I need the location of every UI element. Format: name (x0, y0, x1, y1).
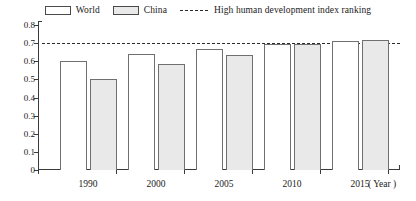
legend-label-world: World (76, 5, 100, 15)
x-axis-tick (320, 170, 321, 174)
chart-legend: World China High human development index… (0, 0, 416, 20)
x-axis-cap (399, 165, 400, 170)
legend-item-reference-line: High human development index ranking (180, 5, 371, 15)
bar-group (264, 25, 321, 170)
y-axis-label: 0.2 (24, 129, 35, 138)
x-axis-label-2005: 2005 (215, 180, 234, 190)
bar-china-2015 (362, 40, 389, 170)
bar-world-2015 (332, 41, 359, 170)
x-axis-label-2010: 2010 (283, 180, 302, 190)
legend-swatch-dashed-line-icon (180, 10, 208, 11)
x-axis-label-1990: 1990 (79, 180, 98, 190)
x-axis-tick (252, 170, 253, 174)
legend-label-reference-line: High human development index ranking (214, 5, 371, 15)
y-axis-label: 0.7 (24, 39, 35, 48)
y-axis-label: 0.6 (24, 57, 35, 66)
y-axis-label: 0 (31, 166, 36, 175)
x-axis-label-2015: 2015 (351, 180, 370, 190)
bar-china-2005 (226, 55, 253, 170)
x-axis-tick (116, 170, 117, 174)
hdi-bar-chart: World China High human development index… (0, 0, 416, 201)
bar-china-2010 (294, 44, 321, 170)
bar-china-1990 (90, 79, 117, 170)
y-axis-cap (38, 21, 42, 22)
legend-swatch-china-icon (113, 6, 139, 15)
y-axis-label: 0.3 (24, 111, 35, 120)
y-axis-label: 0.4 (24, 93, 35, 102)
bar-world-2005 (196, 49, 223, 170)
legend-item-world: World (45, 5, 100, 15)
y-axis-label: 0.1 (24, 147, 35, 156)
legend-item-china: China (113, 5, 167, 15)
bar-world-1990 (60, 61, 87, 170)
x-axis-label-2000: 2000 (147, 180, 166, 190)
bar-group (128, 25, 185, 170)
legend-swatch-world-icon (45, 6, 71, 15)
x-axis-title: ( Year ) (368, 180, 396, 190)
bar-group (196, 25, 253, 170)
bar-world-2000 (128, 54, 155, 170)
x-axis-tick (184, 170, 185, 174)
y-axis-label: 0.5 (24, 75, 35, 84)
bar-world-2010 (264, 44, 291, 170)
legend-label-china: China (144, 5, 167, 15)
y-axis-line (38, 21, 39, 170)
bar-group (332, 25, 389, 170)
bar-china-2000 (158, 64, 185, 170)
plot-area: 00.10.20.30.40.50.60.70.8 19902000200520… (38, 25, 390, 170)
x-axis-tick (38, 170, 39, 174)
x-axis-tick (388, 170, 389, 174)
y-axis-label: 0.8 (24, 21, 35, 30)
bar-group (60, 25, 117, 170)
